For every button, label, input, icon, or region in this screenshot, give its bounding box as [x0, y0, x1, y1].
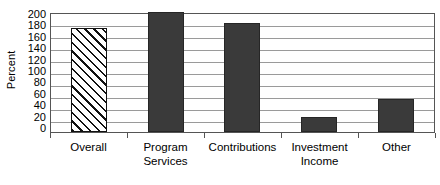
x-axis-tick-mark — [204, 133, 205, 138]
x-axis-category-label: Contributions — [204, 140, 281, 180]
plot-area — [50, 13, 435, 133]
x-axis-category-label-line: Overall — [70, 141, 106, 153]
x-axis-category-labels: OverallProgramServicesContributionsInves… — [50, 140, 435, 180]
x-axis-category-label-line: Investment — [291, 141, 347, 153]
x-axis-tick-mark — [358, 133, 359, 138]
bar-slot — [281, 14, 358, 132]
y-axis-tick-label: 20 — [18, 111, 46, 122]
bar-chart-figure: Percent 200180160140120100806040200 Over… — [0, 0, 440, 185]
x-axis-tick-marks — [50, 133, 435, 139]
x-axis-category-label-line: Contributions — [209, 141, 277, 153]
y-axis-tick-label: 0 — [18, 123, 46, 134]
y-axis-title-label: Percent — [5, 51, 17, 90]
bar-slot — [357, 14, 434, 132]
y-axis-tick-label: 60 — [18, 88, 46, 99]
bars-layer — [51, 14, 434, 132]
y-axis-tick-label: 140 — [18, 43, 46, 54]
x-axis-tick-mark — [50, 133, 51, 138]
y-axis-tick-labels: 200180160140120100806040200 — [18, 7, 46, 133]
y-axis-tick-label: 40 — [18, 100, 46, 111]
y-axis-tick-label: 200 — [18, 9, 46, 20]
bar[interactable] — [301, 117, 337, 132]
x-axis-category-label: ProgramServices — [127, 140, 204, 180]
bar[interactable] — [224, 23, 260, 132]
y-axis-tick-label: 100 — [18, 66, 46, 77]
x-axis-category-label-line: Program — [143, 141, 187, 153]
bar[interactable] — [378, 99, 414, 132]
y-axis-tick-label: 180 — [18, 20, 46, 31]
x-axis-tick-mark — [435, 133, 436, 138]
x-axis-category-label-line: Other — [382, 141, 411, 153]
bar-slot — [204, 14, 281, 132]
x-axis-category-label-line: Income — [281, 154, 358, 168]
x-axis-category-label-line: Services — [127, 154, 204, 168]
bar[interactable] — [148, 12, 184, 132]
x-axis-category-label: Overall — [50, 140, 127, 180]
x-axis-tick-mark — [127, 133, 128, 138]
bar[interactable] — [71, 28, 107, 132]
x-axis-tick-mark — [281, 133, 282, 138]
bar-slot — [128, 14, 205, 132]
y-axis-tick-label: 120 — [18, 54, 46, 65]
y-axis-tick-label: 80 — [18, 77, 46, 88]
bar-slot — [51, 14, 128, 132]
x-axis-category-label: InvestmentIncome — [281, 140, 358, 180]
x-axis-category-label: Other — [358, 140, 435, 180]
y-axis-tick-label: 160 — [18, 31, 46, 42]
